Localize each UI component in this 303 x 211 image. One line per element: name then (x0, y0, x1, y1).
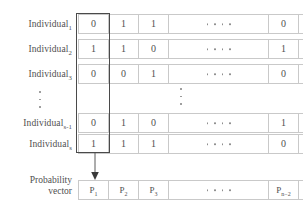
down-arrow-icon (90, 153, 100, 181)
probability-cell-subscript: 3 (155, 191, 158, 197)
matrix-cell: 1 (298, 113, 303, 133)
probability-cell: P3 (138, 180, 168, 200)
matrix-cell: 1 (78, 134, 108, 154)
matrix-row: 0 1 1 0 1 0 (78, 14, 303, 34)
probability-cell-subscript: 2 (125, 191, 128, 197)
vertical-ellipsis-center-icon (180, 88, 182, 105)
matrix-ellipsis-cell (168, 64, 268, 84)
horizontal-ellipsis-icon (169, 23, 268, 25)
probability-cell: Pn−2 (268, 180, 298, 200)
matrix-cell: 1 (138, 64, 168, 84)
row-label-text: Individual (23, 118, 63, 128)
row-label-text: Individual (28, 44, 68, 54)
horizontal-ellipsis-icon (169, 189, 268, 191)
row-label-subscript: s-1 (63, 123, 72, 130)
matrix-row: 1 1 1 0 1 1 (78, 134, 303, 154)
matrix-cell: 0 (138, 113, 168, 133)
matrix-cell: 1 (298, 134, 303, 154)
matrix-row: 0 0 1 0 1 1 (78, 64, 303, 84)
probability-cell: P1 (78, 180, 108, 200)
matrix-cell: 0 (78, 14, 108, 34)
row-label-individual-2: Individual2 (0, 39, 72, 59)
row-label-individual-3: Individual3 (0, 64, 72, 84)
horizontal-ellipsis-icon (169, 48, 268, 50)
matrix-cell: 1 (108, 14, 138, 34)
horizontal-ellipsis-icon (169, 73, 268, 75)
matrix-ellipsis-cell (168, 113, 268, 133)
row-label-text: Individual (29, 139, 69, 149)
row-label-text: Individual (28, 69, 68, 79)
matrix-cell: 1 (138, 134, 168, 154)
matrix-cell: 1 (108, 134, 138, 154)
row-label-subscript: 3 (69, 74, 73, 81)
matrix-ellipsis-cell (168, 14, 268, 34)
matrix-cell: 1 (108, 39, 138, 59)
matrix-cell: 1 (298, 14, 303, 34)
matrix-cell: 1 (108, 113, 138, 133)
row-label-subscript: s (69, 144, 72, 151)
row-label-subscript: 1 (69, 24, 73, 31)
probability-vector-label: Probability vector (0, 175, 72, 197)
row-label-subscript: 2 (69, 49, 73, 56)
probability-cell: Pn−1 (298, 180, 303, 200)
matrix-cell: 0 (268, 14, 298, 34)
matrix-cell: 0 (108, 64, 138, 84)
row-label-individual-1: Individual1 (0, 14, 72, 34)
matrix-cell: 1 (298, 64, 303, 84)
matrix-cell: 1 (268, 39, 298, 59)
matrix-cell: 0 (138, 39, 168, 59)
probability-cell-subscript: 1 (95, 191, 98, 197)
horizontal-ellipsis-icon (169, 143, 268, 145)
probability-vector-label-line2: vector (0, 186, 72, 197)
matrix-row: 0 1 0 1 1 0 (78, 113, 303, 133)
matrix-cell: 1 (78, 39, 108, 59)
vertical-ellipsis-left-icon (39, 91, 41, 108)
probability-vector-label-line1: Probability (0, 175, 72, 186)
probability-ellipsis-cell (168, 180, 268, 200)
matrix-cell: 1 (298, 39, 303, 59)
probability-cell: P2 (108, 180, 138, 200)
row-label-individual-s-minus-1: Individuals-1 (0, 113, 72, 133)
row-label-text: Individual (28, 19, 68, 29)
matrix-cell: 0 (78, 113, 108, 133)
matrix-cell: 0 (268, 134, 298, 154)
horizontal-ellipsis-icon (169, 122, 268, 124)
matrix-ellipsis-cell (168, 39, 268, 59)
matrix-ellipsis-cell (168, 134, 268, 154)
row-label-individual-s: Individuals (0, 134, 72, 154)
matrix-cell: 0 (268, 64, 298, 84)
population-matrix-diagram: Individual1 0 1 1 0 1 0 Individual2 1 1 … (0, 0, 303, 211)
matrix-cell: 1 (268, 113, 298, 133)
probability-vector-row: P1 P2 P3 Pn−2 Pn−1 Pn (78, 180, 303, 200)
probability-cell-subscript: n−2 (281, 191, 290, 197)
matrix-cell: 0 (78, 64, 108, 84)
matrix-cell: 1 (138, 14, 168, 34)
matrix-row: 1 1 0 1 1 0 (78, 39, 303, 59)
